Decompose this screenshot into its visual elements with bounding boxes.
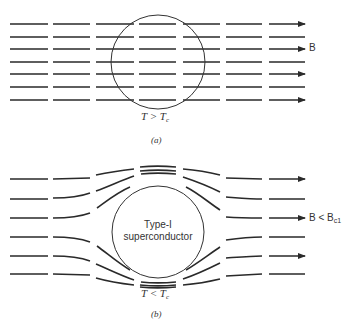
temperature-label-below-tc: T < Tc	[141, 287, 169, 299]
caption-a: (a)	[151, 135, 162, 145]
meissner-effect-diagram	[0, 0, 348, 328]
temperature-label-above-tc: T > Tc	[141, 110, 169, 122]
field-label-b-less-bc1: B < Bc1	[309, 212, 341, 223]
field-lines-normal-state	[10, 24, 305, 100]
caption-b: (b)	[151, 309, 162, 319]
field-label-b: B	[309, 42, 316, 53]
superconductor-label: Type-I superconductor	[120, 219, 196, 243]
